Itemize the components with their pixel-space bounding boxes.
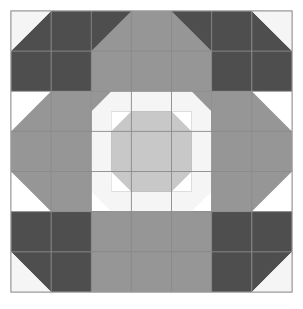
quilt-block-figure — [0, 0, 303, 309]
edge-bottom-bar-top — [91, 212, 211, 252]
quilt-block-canvas — [0, 0, 303, 309]
patch-layer — [11, 11, 292, 292]
center-octagon — [111, 111, 191, 191]
edge-bottom-bar-fill — [91, 252, 211, 292]
